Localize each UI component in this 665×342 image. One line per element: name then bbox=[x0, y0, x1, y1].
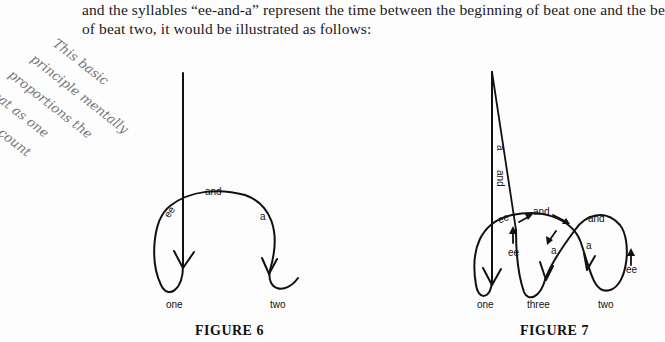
arrowhead-icon bbox=[627, 248, 635, 256]
figure-6: ee and a one two FIGURE 6 bbox=[154, 73, 298, 338]
label-a: a bbox=[260, 211, 266, 222]
label-a-mid: a bbox=[551, 245, 557, 256]
label-three: three bbox=[527, 299, 550, 310]
upbeat-line bbox=[492, 72, 516, 230]
label-and-top: and bbox=[495, 170, 506, 187]
label-ee-left: ee bbox=[496, 211, 511, 225]
arrowhead-icon bbox=[262, 258, 277, 274]
figure-caption: FIGURE 6 bbox=[195, 323, 264, 338]
handwritten-note: This basic principle mentally proportion… bbox=[0, 11, 148, 219]
label-one: one bbox=[477, 299, 494, 310]
label-and: and bbox=[205, 186, 222, 197]
beat-curve-two-three bbox=[545, 215, 627, 290]
label-two: two bbox=[270, 299, 286, 310]
label-one: one bbox=[166, 299, 183, 310]
label-ee-right: ee bbox=[626, 264, 638, 275]
label-a-top: a bbox=[495, 145, 506, 151]
arrowhead-icon bbox=[525, 214, 533, 220]
label-ee-up: ee bbox=[508, 247, 520, 258]
beat-curve-one-two bbox=[474, 213, 610, 296]
beat-curve bbox=[154, 191, 298, 292]
figure-caption: FIGURE 7 bbox=[520, 323, 589, 338]
label-a-right: a bbox=[586, 240, 592, 251]
figure-7: a and ee and ee a a and ee one three two… bbox=[474, 72, 637, 338]
label-ee: ee bbox=[162, 204, 178, 220]
label-two: two bbox=[598, 299, 614, 310]
label-and-mid: and bbox=[533, 206, 550, 217]
label-and-right: and bbox=[588, 213, 605, 224]
